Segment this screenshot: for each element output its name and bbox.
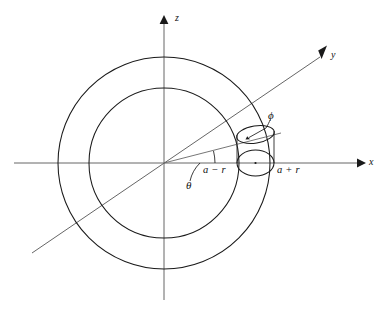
tube-center-point <box>254 162 256 164</box>
inner-radius-label: a − r <box>203 165 226 176</box>
phi-angle-label: ϕ <box>268 110 274 121</box>
y-axis-label: y <box>331 50 335 60</box>
theta-angle-arc-upper <box>214 151 216 163</box>
x-axis-label: x <box>369 157 373 167</box>
axis-group <box>14 15 366 300</box>
y-axis-line <box>32 57 320 253</box>
phi-radius-line <box>249 128 266 138</box>
theta-radial-ray <box>164 133 281 163</box>
theta-label-leader-arc <box>190 163 200 181</box>
tube-cross-section-ellipse-upper <box>235 123 275 146</box>
phi-radius-arrowhead <box>246 136 251 139</box>
outer-radius-label: a + r <box>277 165 300 176</box>
theta-angle-label: θ <box>186 180 191 191</box>
z-axis-arrowhead <box>160 15 169 24</box>
x-axis-arrowhead <box>357 159 366 168</box>
diagram-canvas <box>0 0 383 315</box>
z-axis-label: z <box>175 13 179 23</box>
torus-diagram-figure: z y x θ ϕ a − r a + r <box>0 0 383 315</box>
